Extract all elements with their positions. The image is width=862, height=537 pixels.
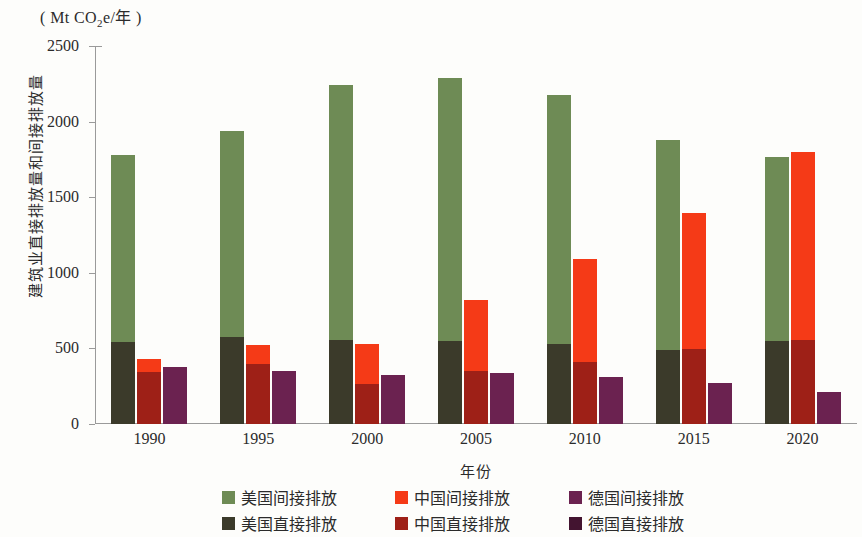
bar-cn[interactable] — [137, 359, 161, 424]
legend-swatch-icon — [222, 517, 235, 530]
y-tick: 0 — [89, 424, 95, 425]
legend-item[interactable]: 中国直接排放 — [395, 511, 568, 535]
y-tick: 1000 — [89, 273, 95, 274]
y-axis-line — [95, 46, 96, 424]
x-tick-label: 2010 — [545, 430, 625, 448]
bar-segment-us-ind — [438, 78, 462, 341]
bar-segment-us-ind — [656, 140, 680, 350]
bar-cn[interactable] — [464, 300, 488, 424]
bar-segment-cn-dir — [464, 371, 488, 424]
bar-de[interactable] — [817, 392, 841, 425]
bar-group — [765, 46, 841, 424]
x-tick-label: 1990 — [109, 430, 189, 448]
bar-us[interactable] — [329, 85, 353, 424]
bar-segment-cn-dir — [246, 364, 270, 424]
bar-group — [438, 46, 514, 424]
x-tick-label: 2000 — [327, 430, 407, 448]
y-tick: 1500 — [89, 197, 95, 198]
bar-segment-cn-dir — [137, 372, 161, 424]
legend-swatch-icon — [395, 491, 408, 504]
bar-de[interactable] — [272, 371, 296, 424]
legend-swatch-icon — [222, 491, 235, 504]
bar-segment-us-ind — [765, 157, 789, 341]
bar-cn[interactable] — [682, 213, 706, 424]
bar-segment-de-ind — [599, 377, 623, 424]
bar-de[interactable] — [381, 375, 405, 424]
bar-us[interactable] — [220, 131, 244, 424]
bar-segment-us-ind — [220, 131, 244, 337]
bar-cn[interactable] — [573, 259, 597, 424]
bar-segment-cn-dir — [573, 362, 597, 424]
bar-segment-cn-dir — [355, 384, 379, 424]
bar-cn[interactable] — [355, 344, 379, 424]
y-tick-label: 0 — [71, 415, 79, 433]
bar-group — [656, 46, 732, 424]
bar-segment-us-ind — [547, 95, 571, 344]
bar-segment-cn-ind — [573, 259, 597, 362]
y-tick: 500 — [89, 348, 95, 349]
y-tick-label: 1500 — [47, 188, 79, 206]
bar-segment-us-dir — [656, 350, 680, 424]
y-tick-label: 2500 — [47, 37, 79, 55]
legend-item[interactable]: 美国间接排放 — [222, 485, 395, 509]
bar-cn[interactable] — [791, 152, 815, 424]
bar-segment-us-dir — [765, 341, 789, 424]
bar-segment-us-dir — [547, 344, 571, 424]
bar-segment-us-ind — [329, 85, 353, 340]
unit-label: ( Mt CO2e/年 ) — [40, 4, 142, 29]
bar-segment-us-dir — [329, 340, 353, 424]
legend-item[interactable]: 德国间接排放 — [569, 485, 742, 509]
y-axis-top-cap — [95, 46, 102, 47]
y-tick: 2000 — [89, 122, 95, 123]
bar-us[interactable] — [547, 95, 571, 424]
bar-de[interactable] — [599, 377, 623, 424]
bar-segment-cn-ind — [682, 213, 706, 349]
bar-segment-us-ind — [111, 155, 135, 342]
legend-label: 德国直接排放 — [588, 511, 684, 535]
x-tick-label: 1995 — [218, 430, 298, 448]
bar-segment-de-ind — [272, 371, 296, 424]
bar-segment-de-ind — [163, 367, 187, 424]
bar-segment-cn-dir — [682, 349, 706, 424]
plot-area: 05001000150020002500 1990199520002005201… — [95, 46, 857, 424]
legend-label: 中国间接排放 — [414, 485, 510, 509]
bar-segment-us-dir — [111, 342, 135, 424]
bar-us[interactable] — [111, 155, 135, 424]
bar-segment-cn-ind — [246, 345, 270, 363]
bar-us[interactable] — [438, 78, 462, 424]
bar-segment-de-ind — [708, 383, 732, 424]
legend-item[interactable]: 美国直接排放 — [222, 511, 395, 535]
legend-item[interactable]: 德国直接排放 — [569, 511, 742, 535]
chart-legend: 美国间接排放中国间接排放德国间接排放美国直接排放中国直接排放德国直接排放 — [222, 484, 742, 536]
bar-segment-de-ind — [381, 375, 405, 424]
y-tick-label: 1000 — [47, 264, 79, 282]
legend-label: 德国间接排放 — [588, 485, 684, 509]
y-tick-label: 2000 — [47, 113, 79, 131]
bar-segment-cn-dir — [791, 340, 815, 424]
legend-swatch-icon — [395, 517, 408, 530]
bar-group — [547, 46, 623, 424]
x-tick-label: 2020 — [763, 430, 843, 448]
bar-segment-us-dir — [220, 337, 244, 424]
legend-label: 美国间接排放 — [241, 485, 337, 509]
bar-group — [329, 46, 405, 424]
chart-figure: ( Mt CO2e/年 ) 建筑业直接排放量和间接排放量 05001000150… — [0, 0, 862, 537]
legend-swatch-icon — [569, 491, 582, 504]
bar-us[interactable] — [765, 157, 789, 424]
legend-swatch-icon — [569, 517, 582, 530]
bar-segment-us-dir — [438, 341, 462, 424]
bar-de[interactable] — [708, 383, 732, 424]
bar-segment-de-ind — [490, 373, 514, 424]
bar-de[interactable] — [163, 367, 187, 424]
x-tick-label: 2005 — [436, 430, 516, 448]
bar-de[interactable] — [490, 373, 514, 424]
bar-group — [111, 46, 187, 424]
y-axis-title: 建筑业直接排放量和间接排放量 — [24, 56, 45, 316]
bar-segment-cn-ind — [791, 152, 815, 340]
bar-us[interactable] — [656, 140, 680, 424]
y-tick: 2500 — [89, 46, 95, 47]
bar-segment-cn-ind — [137, 359, 161, 372]
bar-cn[interactable] — [246, 345, 270, 424]
y-tick-label: 500 — [55, 339, 79, 357]
legend-item[interactable]: 中国间接排放 — [395, 485, 568, 509]
